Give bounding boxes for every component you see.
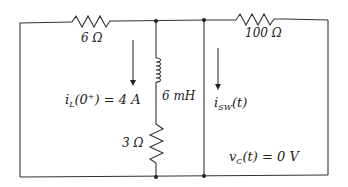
switch-current-label: iSW(t) [214, 96, 247, 112]
node-bottom-switch [202, 174, 206, 178]
circuit-diagram: 6 Ω 100 Ω 3 Ω 6 mH iL(0+) = 4 A iSW(t) v… [0, 0, 348, 187]
resistor-100-ohm-icon [204, 14, 328, 25]
resistor-3-ohm-icon [150, 124, 163, 177]
resistor-6-ohm-label: 6 Ω [81, 32, 102, 44]
inductor-icon [156, 58, 161, 82]
node-top-switch [202, 18, 206, 22]
capacitor-voltage-label: vC(t) = 0 V [229, 150, 299, 166]
resistor-3-ohm-label: 3 Ω [122, 137, 143, 149]
node-top-inductor [154, 19, 158, 23]
resistor-100-ohm-label: 100 Ω [245, 27, 282, 39]
resistor-6-ohm-icon [72, 16, 118, 27]
inductor-label: 6 mH [162, 90, 195, 102]
node-bottom-inductor [154, 175, 158, 179]
inductor-current-label: iL(0+) = 4 A [65, 93, 141, 109]
